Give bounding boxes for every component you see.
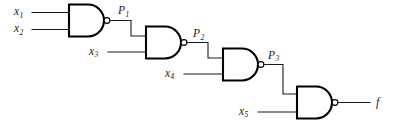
gate-3-inversion-bubble	[258, 62, 264, 68]
wire-p1-to-gate2	[110, 21, 146, 37]
wire-p2-to-gate3	[187, 43, 223, 59]
circuit-schematic-canvas	[0, 0, 399, 131]
gate-4-nand	[297, 87, 338, 119]
input-label-x5: x5	[239, 106, 248, 118]
gate-4-body	[297, 87, 332, 119]
input-label-x3: x3	[89, 46, 98, 58]
logic-circuit-diagram: x1 x2 x3 x4 x5 P1 P2 P3 f	[0, 0, 399, 131]
input-label-x4: x4	[165, 68, 174, 80]
gate-2-inversion-bubble	[181, 40, 187, 46]
input-label-x2: x2	[14, 23, 23, 35]
input-label-x1: x1	[14, 6, 23, 18]
gate-1-body	[69, 5, 104, 37]
gate-3-body	[223, 49, 258, 81]
gate-1-inversion-bubble	[104, 18, 110, 24]
gate-4-inversion-bubble	[332, 100, 338, 106]
wire-p3-to-gate4	[264, 65, 297, 95]
gate-1-nand	[69, 5, 110, 37]
signal-label-p2: P2	[193, 28, 204, 40]
gate-2-nand	[146, 27, 187, 59]
signal-label-p1: P1	[118, 5, 129, 17]
signal-label-p3: P3	[268, 50, 279, 62]
output-label-f: f	[376, 96, 379, 108]
gate-2-body	[146, 27, 181, 59]
gate-3-nand	[223, 49, 264, 81]
